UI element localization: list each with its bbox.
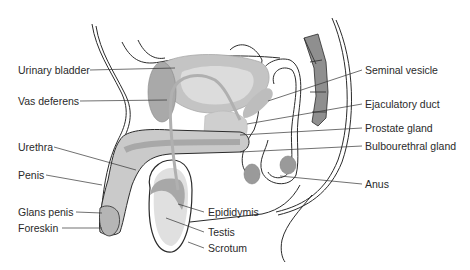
sphincter [244, 156, 296, 184]
label-urinary-bladder: Urinary bladder [18, 64, 90, 76]
label-anus: Anus [365, 178, 389, 190]
label-seminal-vesicle: Seminal vesicle [365, 64, 438, 76]
label-penis: Penis [18, 169, 44, 181]
label-urethra: Urethra [18, 141, 53, 153]
anatomy-diagram [0, 0, 470, 270]
label-bulbourethral-gland: Bulbourethral gland [365, 140, 456, 152]
label-glans-penis: Glans penis [18, 206, 73, 218]
label-prostate-gland: Prostate gland [365, 122, 433, 134]
label-scrotum: Scrotum [208, 242, 247, 254]
label-vas-deferens: Vas deferens [18, 95, 79, 107]
label-ejaculatory-duct: Ejaculatory duct [365, 98, 440, 110]
label-epididymis: Epididymis [208, 206, 259, 218]
label-testis: Testis [208, 226, 235, 238]
label-foreskin: Foreskin [18, 222, 58, 234]
